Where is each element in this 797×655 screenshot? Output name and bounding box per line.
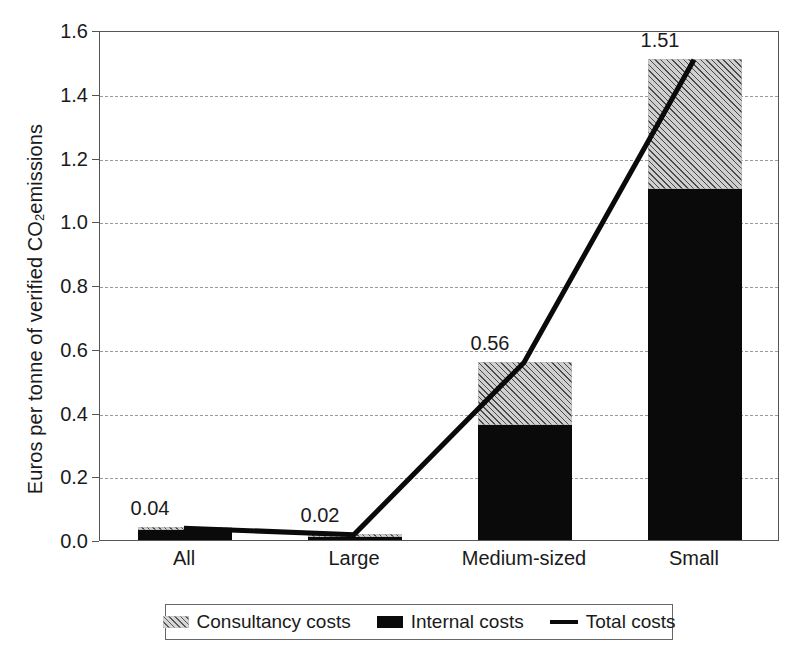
- y-tick-label: 0.8: [28, 276, 88, 296]
- data-value-label: 0.56: [471, 333, 510, 353]
- y-tick-label: 1.2: [28, 149, 88, 169]
- y-tick-label: 1.4: [28, 85, 88, 105]
- bar-segment-internal-costs: [308, 537, 402, 540]
- consultancy-swatch-icon: [163, 616, 189, 628]
- legend-label-total: Total costs: [586, 611, 676, 633]
- x-tick-label-large: Large: [328, 548, 379, 568]
- y-tick-mark: [92, 286, 99, 287]
- legend-item-internal-costs: Internal costs: [377, 611, 524, 633]
- y-tick-mark: [92, 350, 99, 351]
- bar-group: [308, 534, 402, 540]
- bar-segment-internal-costs: [138, 530, 232, 540]
- chart-legend: Consultancy costs Internal costs Total c…: [165, 604, 673, 640]
- bar-segment-consultancy-costs: [138, 527, 232, 530]
- bar-group: [478, 362, 572, 541]
- bar-segment-internal-costs: [648, 189, 742, 540]
- chart-figure: Euros per tonne of verified CO2 emission…: [0, 0, 797, 655]
- plot-area: [99, 31, 779, 541]
- total-line-swatch-icon: [550, 620, 578, 624]
- legend-item-consultancy-costs: Consultancy costs: [163, 611, 351, 633]
- y-tick-mark: [92, 95, 99, 96]
- data-value-label: 0.04: [131, 498, 170, 518]
- bar-group: [138, 527, 232, 540]
- y-tick-label: 1.6: [28, 21, 88, 41]
- bar-segment-consultancy-costs: [478, 362, 572, 426]
- y-tick-mark: [92, 477, 99, 478]
- data-value-label: 1.51: [641, 30, 680, 50]
- y-tick-mark: [92, 414, 99, 415]
- internal-swatch-icon: [377, 616, 403, 628]
- bar-segment-internal-costs: [478, 425, 572, 540]
- y-tick-mark: [92, 159, 99, 160]
- x-tick-label-medium-sized: Medium-sized: [462, 548, 586, 568]
- legend-label-internal: Internal costs: [411, 611, 524, 633]
- bar-segment-consultancy-costs: [308, 534, 402, 537]
- legend-item-total-costs: Total costs: [550, 611, 676, 633]
- bar-group: [648, 59, 742, 540]
- y-tick-label: 0.0: [28, 531, 88, 551]
- x-tick-label-small: Small: [669, 548, 719, 568]
- y-tick-label: 0.4: [28, 404, 88, 424]
- data-value-label: 0.02: [301, 505, 340, 525]
- y-tick-label: 0.6: [28, 340, 88, 360]
- x-tick-label-all: All: [173, 548, 195, 568]
- bar-segment-consultancy-costs: [648, 59, 742, 190]
- y-tick-label: 1.0: [28, 212, 88, 232]
- legend-label-consultancy: Consultancy costs: [197, 611, 351, 633]
- y-tick-mark: [92, 31, 99, 32]
- y-tick-label: 0.2: [28, 467, 88, 487]
- y-axis-title-after: emissions: [24, 124, 47, 214]
- y-tick-mark: [92, 541, 99, 542]
- y-axis-title: Euros per tonne of verified CO2 emission…: [18, 39, 52, 579]
- y-tick-mark: [92, 222, 99, 223]
